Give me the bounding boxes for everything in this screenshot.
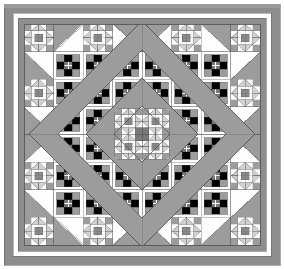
ninepatch-side-patch <box>153 82 161 89</box>
star-corner-patch <box>46 217 53 224</box>
ninepatch-corner-patch <box>57 82 65 89</box>
ninepatch-side-patch <box>190 117 198 124</box>
star-corner-patch <box>231 238 238 245</box>
star-corner-patch <box>83 45 90 52</box>
star-corner-patch <box>24 100 31 107</box>
ninepatch-corner-patch <box>145 69 153 76</box>
star-block <box>24 79 54 107</box>
ninepatch-side-patch <box>116 89 124 96</box>
star-corner-patch <box>253 79 260 86</box>
hst-block <box>231 190 261 218</box>
ninepatch-corner-patch <box>145 193 153 200</box>
star-corner-patch <box>172 238 179 245</box>
ninepatch-side-patch <box>86 200 94 207</box>
star-corner-patch <box>24 24 31 31</box>
ninepatch-corner-patch <box>220 180 228 187</box>
ninepatch-block <box>54 52 84 80</box>
ninepatch-corner-patch <box>57 193 65 200</box>
ninepatch-corner-patch <box>220 55 228 62</box>
ninepatch-corner-patch <box>57 55 65 62</box>
ninepatch-side-patch <box>190 200 198 207</box>
ninepatch-side-patch <box>220 62 228 69</box>
ninepatch-side-patch <box>57 89 65 96</box>
ninepatch-side-patch <box>64 82 72 89</box>
ninepatch-corner-patch <box>72 138 80 145</box>
ninepatch-side-patch <box>94 55 102 62</box>
ninepatch-corner-patch <box>72 69 80 76</box>
ninepatch-side-patch <box>64 55 72 62</box>
ninepatch-corner-patch <box>220 69 228 76</box>
ninepatch-side-patch <box>220 172 228 179</box>
star-corner-patch <box>231 24 238 31</box>
ninepatch-side-patch <box>190 62 198 69</box>
star-corner-patch <box>105 45 112 52</box>
ninepatch-side-patch <box>123 82 131 89</box>
ninepatch-corner-patch <box>204 55 212 62</box>
star-block <box>83 217 113 245</box>
star-corner-patch <box>46 100 53 107</box>
star-block <box>231 79 261 107</box>
ninepatch-side-patch <box>123 193 131 200</box>
star-corner-patch <box>46 45 53 52</box>
ninepatch-side-patch <box>86 145 94 152</box>
ninepatch-side-patch <box>94 110 102 117</box>
ninepatch-corner-patch <box>86 152 94 159</box>
star-corner-patch <box>115 128 122 134</box>
ninepatch-side-patch <box>72 62 80 69</box>
ninepatch-corner-patch <box>204 193 212 200</box>
star-corner-patch <box>162 134 169 140</box>
star-corner-patch <box>253 45 260 52</box>
ninepatch-side-patch <box>182 97 190 104</box>
ninepatch-side-patch <box>131 62 139 69</box>
ninepatch-side-patch <box>94 97 102 104</box>
ninepatch-corner-patch <box>190 55 198 62</box>
ninepatch-side-patch <box>182 152 190 159</box>
hst-block <box>54 24 84 52</box>
star-corner-patch <box>83 238 90 245</box>
ninepatch-corner-patch <box>72 207 80 214</box>
star-corner-patch <box>231 100 238 107</box>
ninepatch-side-patch <box>175 89 183 96</box>
ninepatch-corner-patch <box>72 124 80 131</box>
ninepatch-side-patch <box>220 200 228 207</box>
star-block <box>24 217 54 245</box>
hst-block <box>54 217 84 245</box>
star-corner-patch <box>46 24 53 31</box>
ninepatch-side-patch <box>204 62 212 69</box>
star-corner-patch <box>83 217 90 224</box>
ninepatch-block <box>54 190 84 218</box>
star-corner-patch <box>253 217 260 224</box>
ninepatch-side-patch <box>86 62 94 69</box>
star-block <box>231 24 261 52</box>
star-corner-patch <box>172 217 179 224</box>
ninepatch-side-patch <box>212 207 220 214</box>
ninepatch-side-patch <box>57 200 65 207</box>
ninepatch-corner-patch <box>190 207 198 214</box>
ninepatch-side-patch <box>212 69 220 76</box>
star-corner-patch <box>46 162 53 169</box>
star-corner-patch <box>162 128 169 134</box>
star-corner-patch <box>194 24 201 31</box>
ninepatch-side-patch <box>123 69 131 76</box>
ninepatch-side-patch <box>145 200 153 207</box>
ninepatch-corner-patch <box>102 165 110 172</box>
star-corner-patch <box>231 45 238 52</box>
quilt-pattern-diagram <box>0 0 284 269</box>
ninepatch-side-patch <box>153 69 161 76</box>
ninepatch-side-patch <box>94 152 102 159</box>
star-corner-patch <box>83 24 90 31</box>
ninepatch-corner-patch <box>161 180 169 187</box>
ninepatch-side-patch <box>212 82 220 89</box>
ninepatch-side-patch <box>153 193 161 200</box>
star-corner-patch <box>24 162 31 169</box>
star-block <box>231 217 261 245</box>
ninepatch-side-patch <box>131 200 139 207</box>
ninepatch-corner-patch <box>175 165 183 172</box>
ninepatch-side-patch <box>64 180 72 187</box>
star-corner-patch <box>172 24 179 31</box>
ninepatch-side-patch <box>64 69 72 76</box>
ninepatch-corner-patch <box>116 82 124 89</box>
star-corner-patch <box>115 134 122 140</box>
ninepatch-block <box>201 190 231 218</box>
ninepatch-side-patch <box>212 55 220 62</box>
